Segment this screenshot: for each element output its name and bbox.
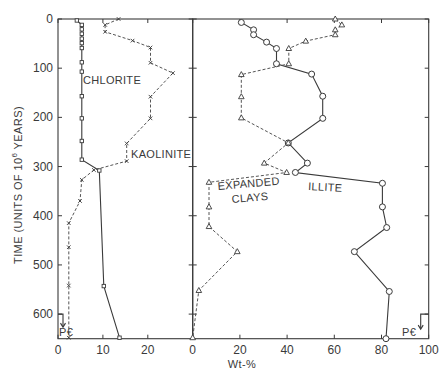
data-point-illite <box>386 288 392 294</box>
data-point-expanded-clays <box>286 46 292 51</box>
data-point-illite <box>320 93 326 99</box>
x-tick-label: 10 <box>96 343 110 357</box>
data-point-kaolinite <box>92 168 96 172</box>
data-point-expanded-clays <box>206 179 212 184</box>
data-point-expanded-clays <box>206 204 212 209</box>
data-point-expanded-clays <box>235 249 241 254</box>
clay-mineral-chart: TIME (UNITS OF 106 YEARS) 01020010020030… <box>0 0 447 383</box>
precambrian-boundary <box>58 314 429 329</box>
data-point-chlorite <box>80 37 83 40</box>
data-point-chlorite <box>102 284 105 287</box>
data-point-chlorite <box>80 46 83 49</box>
data-point-kaolinite <box>125 142 129 146</box>
data-point-illite <box>383 336 389 342</box>
data-point-kaolinite <box>171 71 175 75</box>
y-tick-label: 0 <box>46 12 53 26</box>
data-point-illite <box>264 39 270 45</box>
x-tick-label: 20 <box>141 343 155 357</box>
series-label-kaolinite: KAOLINITE <box>131 148 191 160</box>
y-tick-label: 500 <box>33 258 53 272</box>
y-tick-label: 400 <box>33 209 53 223</box>
data-point-chlorite <box>80 139 83 142</box>
series-label-chlorite: CHLORITE <box>83 74 141 86</box>
y-axis-title-pre: TIME (UNITS OF 10 <box>12 158 24 264</box>
boundary-bracket <box>58 314 63 326</box>
data-point-chlorite <box>80 23 83 26</box>
y-axis-title: TIME (UNITS OF 106 YEARS) <box>10 106 24 264</box>
left-panel-frame <box>58 19 193 339</box>
series-label-expanded-clays-line2: CLAYS <box>231 190 269 205</box>
data-point-chlorite <box>80 70 83 73</box>
data-point-illite <box>273 46 279 52</box>
x-tick-label: 60 <box>328 343 342 357</box>
data-point-illite <box>384 225 390 231</box>
data-point-illite <box>320 115 326 121</box>
data-point-expanded-clays <box>196 287 202 292</box>
data-point-chlorite <box>118 336 121 339</box>
precambrian-label-left: P€ <box>59 326 73 338</box>
x-axis-title: Wt-% <box>228 358 256 370</box>
data-point-expanded-clays <box>239 115 245 120</box>
x-tick-label: 100 <box>419 343 439 357</box>
data-point-chlorite <box>80 32 83 35</box>
data-point-chlorite <box>80 41 83 44</box>
data-point-illite <box>379 204 385 210</box>
data-point-chlorite <box>80 28 83 31</box>
series-line-chlorite <box>77 21 120 338</box>
x-tick-label: 20 <box>233 343 247 357</box>
data-point-chlorite <box>75 19 78 22</box>
data-point-chlorite <box>80 61 83 64</box>
x-tick-label: 0 <box>55 343 62 357</box>
boundary-bracket <box>421 314 429 328</box>
data-point-chlorite <box>80 117 83 120</box>
data-point-expanded-clays <box>261 160 267 165</box>
data-point-expanded-clays <box>190 335 196 340</box>
series-label-illite: ILLITE <box>308 180 343 194</box>
data-point-expanded-clays <box>206 224 212 229</box>
data-point-illite <box>251 32 257 38</box>
y-tick-label: 200 <box>33 110 53 124</box>
data-point-chlorite <box>80 95 83 98</box>
data-point-expanded-clays <box>286 61 292 66</box>
data-point-expanded-clays <box>239 94 245 99</box>
data-point-expanded-clays <box>332 32 338 37</box>
data-point-illite <box>292 169 298 175</box>
series-label-expanded-clays-line1: EXPANDED <box>217 175 280 192</box>
data-point-illite <box>238 19 244 25</box>
data-point-chlorite <box>80 158 83 161</box>
data-point-kaolinite <box>149 95 153 99</box>
data-point-illite <box>351 249 357 255</box>
series-line-kaolinite <box>69 19 173 338</box>
y-axis-title-post: YEARS) <box>12 106 24 153</box>
data-point-illite <box>309 71 315 77</box>
y-tick-label: 300 <box>33 160 53 174</box>
data-point-kaolinite <box>149 61 153 65</box>
y-tick-label: 100 <box>33 61 53 75</box>
x-tick-label: 0 <box>189 343 196 357</box>
x-tick-label: 80 <box>375 343 389 357</box>
data-point-illite <box>379 180 385 186</box>
data-point-illite <box>304 160 310 166</box>
precambrian-label-right: P€ <box>402 326 416 338</box>
x-tick-label: 40 <box>280 343 294 357</box>
y-tick-label: 600 <box>33 307 53 321</box>
